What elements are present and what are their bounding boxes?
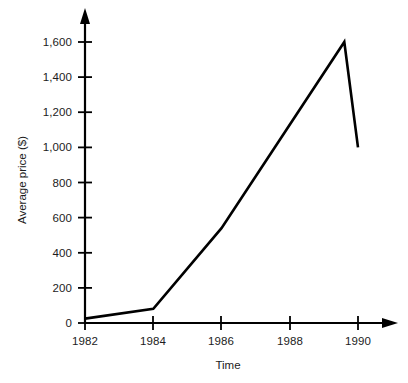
- x-tick-label-1986: 1986: [208, 335, 234, 347]
- y-tick-label-400: 400: [10, 247, 72, 259]
- y-tick-label-1200: 1,200: [10, 106, 72, 118]
- x-axis: [85, 318, 398, 328]
- y-tick-label-1400: 1,400: [10, 71, 72, 83]
- x-tick-label-1990: 1990: [345, 335, 371, 347]
- data-series-line: [85, 42, 358, 319]
- x-axis-arrow-icon: [382, 318, 398, 328]
- x-tick-label-1984: 1984: [140, 335, 166, 347]
- chart-figure: 0 200 400 600 800 1,000 1,200 1,400 1,60…: [0, 0, 408, 383]
- y-tick-label-0: 0: [10, 317, 72, 329]
- x-tick-label-1982: 1982: [72, 335, 98, 347]
- y-tick-label-200: 200: [10, 282, 72, 294]
- x-tick-label-1988: 1988: [277, 335, 303, 347]
- x-axis-title: Time: [215, 359, 240, 371]
- y-tick-label-1600: 1,600: [10, 36, 72, 48]
- y-axis-arrow-icon: [80, 8, 90, 24]
- y-axis-title: Average price ($): [16, 136, 28, 224]
- y-axis: [80, 8, 90, 323]
